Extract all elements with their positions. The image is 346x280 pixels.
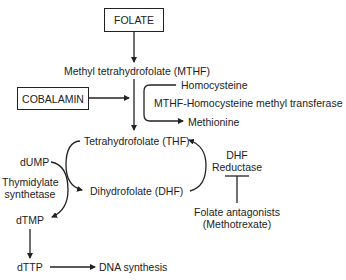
mthf-label: Methyl tetrahydrofolate (MTHF) (64, 65, 204, 77)
dhf-reductase-line1: DHF (210, 149, 264, 161)
thymidylate-synthetase-label: Thymidylate synthetase (2, 176, 58, 200)
dhf-label: Dihydrofolate (DHF) (90, 185, 183, 197)
antagonists-line1: Folate antagonists (188, 206, 286, 218)
cobalamin-node: COBALAMIN (17, 87, 89, 110)
dhf-reductase-label: DHF Reductase (210, 149, 264, 173)
folate-antagonists-label: Folate antagonists (Methotrexate) (188, 206, 286, 230)
thymidylate-line1: Thymidylate (2, 176, 58, 188)
methionine-label: Methionine (188, 116, 239, 128)
dhf-reductase-line2: Reductase (210, 161, 264, 173)
dtmp-label: dTMP (16, 214, 44, 226)
dna-synthesis-label: DNA synthesis (99, 261, 167, 273)
dump-label: dUMP (20, 156, 49, 168)
methyltransferase-label: MTHF-Homocysteine methyl transferase (154, 97, 342, 109)
arrow-dhf-to-thf (189, 140, 206, 191)
thymidylate-line2: synthetase (2, 188, 58, 200)
antagonists-line2: (Methotrexate) (188, 218, 286, 230)
thf-label: Tetrahydrofolate (THF) (84, 135, 190, 147)
homocysteine-label: Homocysteine (181, 79, 248, 91)
dttp-label: dTTP (17, 261, 43, 273)
arrow-thf-to-dhf (66, 141, 82, 190)
folate-node: FOLATE (104, 8, 164, 32)
